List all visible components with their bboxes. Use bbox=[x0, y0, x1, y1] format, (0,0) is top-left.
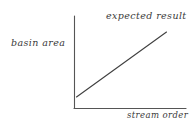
sketch-figure: basin area expected result stream order bbox=[0, 0, 194, 125]
annotation-expected-result: expected result bbox=[106, 11, 187, 21]
x-axis-label: stream order bbox=[127, 111, 188, 120]
trend-line-expected-result bbox=[77, 32, 167, 97]
y-axis-label: basin area bbox=[11, 38, 65, 48]
